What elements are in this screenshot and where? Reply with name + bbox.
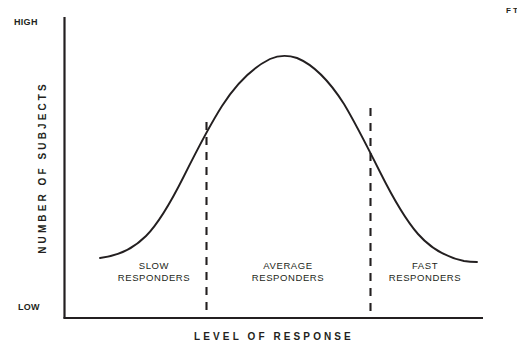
region-label-average: AVERAGE RESPONDERS bbox=[206, 260, 370, 284]
region-average-line2: RESPONDERS bbox=[206, 272, 370, 284]
region-slow-line2: RESPONDERS bbox=[102, 272, 206, 284]
clipped-edge-text: F T bbox=[506, 6, 517, 16]
plot-area bbox=[0, 0, 517, 353]
region-label-slow: SLOW RESPONDERS bbox=[102, 260, 206, 284]
y-axis-tick-low: LOW bbox=[18, 302, 40, 312]
bell-curve-path bbox=[100, 56, 477, 262]
region-fast-line1: FAST bbox=[370, 260, 480, 272]
region-fast-line2: RESPONDERS bbox=[370, 272, 480, 284]
region-average-line1: AVERAGE bbox=[206, 260, 370, 272]
bell-curve-figure: HIGH LOW NUMBER OF SUBJECTS LEVEL OF RES… bbox=[0, 0, 517, 353]
y-axis-tick-high: HIGH bbox=[14, 17, 38, 27]
x-axis-title: LEVEL OF RESPONSE bbox=[64, 331, 484, 342]
y-axis-title: NUMBER OF SUBJECTS bbox=[37, 68, 48, 268]
region-label-fast: FAST RESPONDERS bbox=[370, 260, 480, 284]
region-slow-line1: SLOW bbox=[102, 260, 206, 272]
